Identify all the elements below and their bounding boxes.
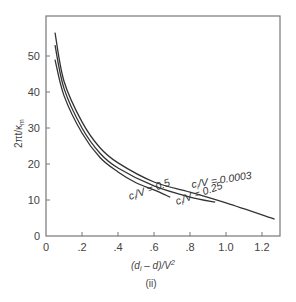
y-axis-ticks: 01020304050 <box>28 50 50 242</box>
x-tick-label: .4 <box>113 241 122 253</box>
curves <box>55 33 275 219</box>
y-tick-label: 20 <box>28 158 40 170</box>
y-tick-label: 10 <box>28 194 40 206</box>
x-tick-label: .2 <box>77 241 86 253</box>
chart: 0.2.4.6.81.01.2 01020304050 ci/V = 0.000… <box>0 0 296 302</box>
y-tick-label: 0 <box>34 230 40 242</box>
x-tick-label: .8 <box>185 241 194 253</box>
x-tick-label: 0 <box>43 241 49 253</box>
y-axis-label: 2πt/κm <box>13 119 25 148</box>
x-tick-label: .6 <box>149 241 158 253</box>
x-tick-label: 1.2 <box>254 241 269 253</box>
y-tick-label: 30 <box>28 122 40 134</box>
curve-0.0003 <box>55 33 275 219</box>
x-tick-label: 1.0 <box>218 241 233 253</box>
figure-caption: (ii) <box>145 278 156 289</box>
curve-0.5 <box>55 60 170 198</box>
x-axis-label: (di – d)/V2 <box>131 259 175 272</box>
y-tick-label: 40 <box>28 86 40 98</box>
y-tick-label: 50 <box>28 50 40 62</box>
x-axis-ticks: 0.2.4.6.81.01.2 <box>43 232 270 253</box>
